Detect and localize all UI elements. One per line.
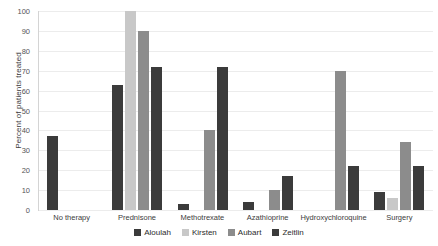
bar: [387, 198, 398, 210]
y-axis-tick: 80: [22, 46, 30, 55]
bar: [217, 67, 228, 210]
y-axis-tick: 30: [22, 146, 30, 155]
legend-swatch-icon: [272, 229, 279, 236]
bar: [112, 85, 123, 210]
bar: [374, 192, 385, 210]
y-axis-tick: 10: [22, 186, 30, 195]
legend-label: Aubart: [238, 228, 262, 237]
legend-swatch-icon: [228, 229, 235, 236]
x-axis-tick: Hydroxychloroquine: [300, 213, 366, 222]
legend-label: Aloulah: [144, 228, 171, 237]
bar: [335, 71, 346, 210]
legend-item[interactable]: Aubart: [228, 228, 262, 237]
bar: [400, 142, 411, 210]
bar: [151, 67, 162, 210]
gridline: [39, 210, 433, 211]
y-axis-tick: 50: [22, 106, 30, 115]
bar-group: [105, 11, 171, 210]
x-axis-tick: Azathioprine: [235, 213, 300, 222]
y-axis-tick: 20: [22, 166, 30, 175]
legend-item[interactable]: Aloulah: [134, 228, 171, 237]
legend-label: Zeitlin: [282, 228, 303, 237]
legend-item[interactable]: Kirsten: [182, 228, 217, 237]
y-axis-tick: 60: [22, 86, 30, 95]
bar-group: [39, 11, 105, 210]
bar-groups: [39, 11, 432, 210]
y-axis-tick-labels: 1009080706050403020100: [0, 0, 34, 211]
bar: [138, 31, 149, 210]
bar: [178, 204, 189, 210]
y-axis-tick: 0: [26, 206, 30, 215]
x-axis-tick-labels: No therapyPrednisoneMethotrexateAzathiop…: [39, 213, 432, 222]
bar-group: [170, 11, 236, 210]
x-axis-tick: Methotrexate: [170, 213, 235, 222]
x-axis-tick: Surgery: [367, 213, 432, 222]
legend-swatch-icon: [134, 229, 141, 236]
bar-group: [367, 11, 433, 210]
bar-chart: Percent of patients treated 100908070605…: [0, 0, 438, 246]
bar-group: [301, 11, 367, 210]
bar: [269, 190, 280, 210]
bar: [125, 11, 136, 210]
bar: [413, 166, 424, 210]
y-axis-tick: 70: [22, 66, 30, 75]
bar-group: [236, 11, 302, 210]
bar: [204, 130, 215, 210]
bar: [47, 136, 58, 210]
bar: [348, 166, 359, 210]
chart-legend: AloulahKirstenAubartZeitlin: [0, 228, 438, 237]
legend-item[interactable]: Zeitlin: [272, 228, 303, 237]
y-axis-tick: 100: [17, 7, 30, 16]
y-axis-tick: 40: [22, 126, 30, 135]
bar: [243, 202, 254, 210]
legend-swatch-icon: [182, 229, 189, 236]
x-axis-tick: Prednisone: [104, 213, 169, 222]
y-axis-tick: 90: [22, 26, 30, 35]
x-axis-tick: No therapy: [39, 213, 104, 222]
legend-label: Kirsten: [192, 228, 217, 237]
bar: [282, 176, 293, 210]
